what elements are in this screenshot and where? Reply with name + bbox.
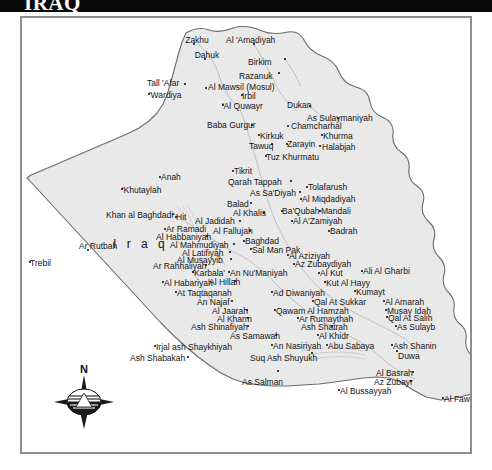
city-label[interactable]: Qarah Tappah xyxy=(228,178,282,187)
compass-rose: N xyxy=(48,363,120,441)
city-label[interactable]: An Nasiriyah xyxy=(273,342,321,351)
city-label[interactable]: Tall 'Afar xyxy=(147,79,179,88)
city-label[interactable]: Khan al Baghdadi xyxy=(106,211,173,220)
city-label[interactable]: Ba'Qubah xyxy=(282,207,320,216)
city-label[interactable]: Al Miqdadiyah xyxy=(302,195,355,204)
city-label[interactable]: Chamcharhal xyxy=(291,122,342,131)
city-label[interactable]: 'Wardiya xyxy=(149,91,181,100)
city-label[interactable]: Kirkuk xyxy=(260,132,284,141)
compass-north-label: N xyxy=(80,363,88,375)
city-dot xyxy=(184,83,186,85)
city-label[interactable]: Irbil xyxy=(242,92,256,101)
city-dot xyxy=(233,243,235,245)
city-label[interactable]: Al 'Amadiyah xyxy=(226,36,275,45)
city-label[interactable]: Zarayin xyxy=(287,140,315,149)
city-label[interactable]: Kumayt xyxy=(356,288,385,297)
city-label[interactable]: Birkim xyxy=(248,58,272,67)
title-bar: IRAQ xyxy=(0,0,492,12)
city-label[interactable]: Tolafarush xyxy=(308,183,347,192)
city-label[interactable]: Baba Gurgur xyxy=(207,121,256,130)
city-dot xyxy=(287,125,289,127)
city-label[interactable]: Hit xyxy=(176,213,186,222)
city-label[interactable]: Ash Shabakah xyxy=(130,354,185,363)
city-label[interactable]: As Salman xyxy=(242,378,283,387)
city-label[interactable]: Abu Sabaya xyxy=(328,342,374,351)
city-dot xyxy=(290,180,292,182)
city-dot xyxy=(205,87,207,89)
city-label[interactable]: Al Khidr xyxy=(319,332,349,341)
city-dot xyxy=(278,72,280,74)
city-label[interactable]: Badrah xyxy=(330,227,357,236)
city-label[interactable]: Razanuk xyxy=(239,72,273,81)
city-label[interactable]: Al Faw xyxy=(444,395,470,404)
city-dot xyxy=(187,356,189,358)
city-label[interactable]: Tuz Khurmatu xyxy=(266,153,319,162)
page-title: IRAQ xyxy=(24,0,81,12)
city-dot xyxy=(319,145,321,147)
city-label[interactable]: Irjal ash Shaykhiyah xyxy=(156,343,232,352)
map-frame: I r a q ZakhuAl 'AmadiyahDahukBirkimRaza… xyxy=(20,16,472,454)
city-dot xyxy=(299,191,301,193)
city-label[interactable]: As Samawah xyxy=(230,332,280,341)
city-label[interactable]: As Sulayb xyxy=(397,323,435,332)
city-dot xyxy=(230,258,232,260)
city-label[interactable]: Ash Shanin xyxy=(393,342,436,351)
city-label[interactable]: Al Kut xyxy=(320,269,343,278)
city-dot xyxy=(229,251,231,253)
city-label[interactable]: 'Al Quwayr xyxy=(222,102,263,111)
city-label[interactable]: Tawuq xyxy=(249,142,274,151)
city-dot xyxy=(250,202,252,204)
city-label[interactable]: Zakhu xyxy=(185,36,209,45)
city-dot xyxy=(277,370,279,372)
city-dot xyxy=(284,58,286,60)
city-label[interactable]: Al Bussayyah xyxy=(340,387,392,396)
city-label[interactable]: Al Khalis xyxy=(233,209,266,218)
city-label[interactable]: As Sa'Diyah xyxy=(250,189,296,198)
city-label[interactable]: Tikrit xyxy=(234,167,252,176)
city-dot xyxy=(231,300,233,302)
city-label[interactable]: Al Hillah xyxy=(209,278,240,287)
city-label[interactable]: Ali Al Gharbi xyxy=(363,267,410,276)
city-label[interactable]: Suq Ash Shuyukh xyxy=(250,354,317,363)
city-label[interactable]: Al Habariyah xyxy=(164,279,213,288)
city-label[interactable]: Anah xyxy=(161,173,181,182)
city-label[interactable]: Ar Rutbah xyxy=(79,242,117,251)
city-label[interactable]: Mandali xyxy=(321,207,351,216)
city-label[interactable]: 'Khutaylah xyxy=(122,186,161,195)
map-stage[interactable]: I r a q ZakhuAl 'AmadiyahDahukBirkimRaza… xyxy=(20,16,472,454)
city-label[interactable]: Al A'Zamiyah xyxy=(293,217,342,226)
city-label[interactable]: Trebil xyxy=(30,259,51,268)
city-label[interactable]: Halabjah xyxy=(322,143,356,152)
city-label[interactable]: Al Fallujah xyxy=(213,227,253,236)
city-label[interactable]: Dahuk xyxy=(195,51,220,60)
city-dot xyxy=(239,220,241,222)
city-label[interactable]: Khurma xyxy=(323,132,353,141)
city-label[interactable]: Duwa xyxy=(398,352,420,361)
city-label[interactable]: Dukan xyxy=(287,101,312,110)
